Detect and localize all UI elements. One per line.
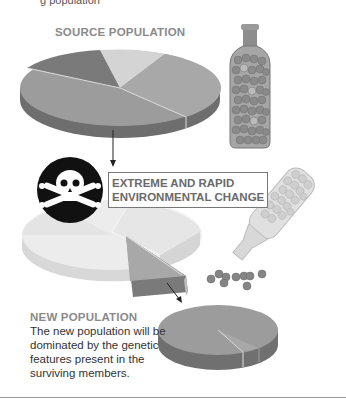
cropped-caption: g population bbox=[40, 0, 100, 6]
bottom-divider bbox=[0, 397, 346, 398]
event-line-2: ENVIRONMENTAL CHANGE bbox=[112, 190, 267, 204]
source-population-title: SOURCE POPULATION bbox=[55, 26, 185, 38]
skull-crossbones-icon bbox=[37, 157, 103, 223]
new-population-description: The new population will be dominated by … bbox=[30, 324, 180, 380]
source-population-pie bbox=[20, 49, 221, 138]
spilled-balls bbox=[207, 270, 266, 290]
new-population-title: NEW POPULATION bbox=[30, 311, 137, 323]
environmental-change-label: EXTREME AND RAPID ENVIRONMENTAL CHANGE bbox=[108, 172, 268, 208]
full-bottle-icon bbox=[230, 24, 270, 148]
event-line-1: EXTREME AND RAPID bbox=[112, 176, 267, 190]
